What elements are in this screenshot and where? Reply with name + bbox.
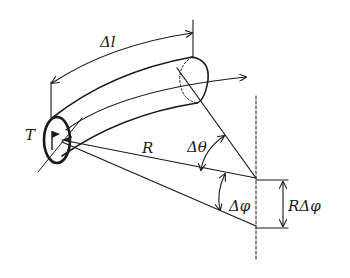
delta-phi-arc (219, 174, 225, 210)
radius-line-r (62, 140, 256, 178)
bent-rod-diagram (0, 0, 350, 278)
label-delta-theta: Δθ (187, 140, 207, 155)
label-delta-phi: Δφ (229, 199, 250, 214)
label-delta-l: Δl (100, 35, 116, 50)
radius-line-lower (62, 142, 256, 226)
label-torque-t: T (25, 128, 35, 143)
rod-end-cap-front (192, 57, 208, 103)
end-normal-line (177, 68, 256, 178)
rod-end-cap-hidden (180, 57, 197, 103)
delta-l-dimension-arc (52, 33, 192, 83)
rod-bottom-edge (62, 103, 197, 156)
label-radius-r: R (142, 141, 153, 156)
rod-axis-arrow (66, 77, 246, 130)
rod-top-edge (52, 57, 192, 118)
label-r-delta-phi: RΔφ (288, 199, 321, 214)
